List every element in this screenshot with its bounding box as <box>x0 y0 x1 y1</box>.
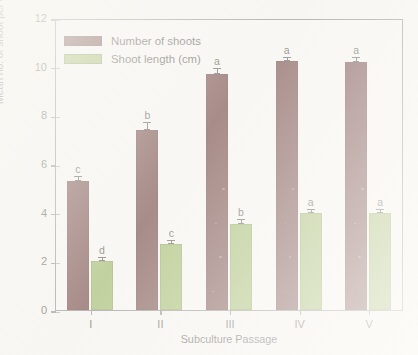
error-bar-cap <box>167 240 175 241</box>
y-tick-inner-stub <box>56 263 60 264</box>
significance-letter-V-length: a <box>368 196 392 208</box>
y-tick-label: 4 <box>17 207 47 219</box>
y-tick-label: 6 <box>17 158 47 170</box>
bar-V-shoots <box>345 62 367 310</box>
error-bar-lower-cap <box>99 260 105 261</box>
x-tick-label-IV: IV <box>280 318 320 330</box>
bar-I-shoots <box>67 181 89 310</box>
bar-II-length <box>160 244 182 310</box>
legend-label-number-of-shoots: Number of shoots <box>111 35 201 47</box>
y-tick-inner-stub <box>56 214 60 215</box>
x-tick-label-III: III <box>210 318 250 330</box>
error-bar-cap <box>376 209 384 210</box>
scan-speck <box>292 188 295 191</box>
scan-speck <box>354 223 356 225</box>
figure-canvas: Number of shoots Shoot length (cm) 02468… <box>0 0 418 355</box>
y-tick-inner-stub <box>56 68 60 69</box>
scan-speck <box>219 256 222 259</box>
y-tick-label: 0 <box>17 304 47 316</box>
error-bar-cap <box>74 176 82 177</box>
plot-area: Number of shoots Shoot length (cm) 02468… <box>55 19 403 311</box>
x-tick-label-V: V <box>349 318 389 330</box>
x-tick-mark-II <box>160 310 161 315</box>
error-bar-lower-cap <box>377 212 383 213</box>
error-bar-lower-cap <box>75 180 81 181</box>
error-bar-lower-cap <box>284 60 290 61</box>
scan-speck <box>358 256 361 259</box>
error-bar-lower-cap <box>168 243 174 244</box>
significance-letter-III-length: b <box>229 206 253 218</box>
chart-legend: Number of shoots Shoot length (cm) <box>64 33 201 69</box>
error-bar-lower-cap <box>238 223 244 224</box>
bar-III-length <box>230 224 252 310</box>
legend-item-number-of-shoots: Number of shoots <box>64 33 201 48</box>
error-bar-cap <box>143 122 151 123</box>
legend-label-shoot-length: Shoot length (cm) <box>111 53 201 65</box>
x-tick-mark-III <box>230 310 231 315</box>
error-bar-lower-cap <box>353 61 359 62</box>
legend-item-shoot-length: Shoot length (cm) <box>64 51 201 66</box>
y-tick-label: 12 <box>17 12 47 24</box>
error-bar-lower-cap <box>144 129 150 130</box>
significance-letter-IV-shoots: a <box>275 44 299 56</box>
scan-speck <box>222 188 225 191</box>
scan-speck <box>289 256 292 259</box>
y-axis-title: Mean no. of shoot per explant/Mean shoot… <box>0 0 5 104</box>
bar-IV-length <box>300 213 322 310</box>
error-bar-cap <box>237 219 245 220</box>
significance-letter-V-shoots: a <box>344 44 368 56</box>
x-tick-mark-I <box>91 310 92 315</box>
error-bar-cap <box>283 57 291 58</box>
bar-III-shoots <box>206 74 228 310</box>
bar-II-shoots <box>136 130 158 310</box>
error-bar-cap <box>213 68 221 69</box>
error-bar-cap <box>352 57 360 58</box>
significance-letter-I-length: d <box>90 244 114 256</box>
x-tick-label-I: I <box>71 318 111 330</box>
y-tick-inner-stub <box>56 117 60 118</box>
y-tick-label: 8 <box>17 109 47 121</box>
error-bar-cap <box>307 209 315 210</box>
scan-speck <box>215 223 217 225</box>
y-tick-label: 10 <box>17 61 47 73</box>
x-axis-title: Subculture Passage <box>55 333 403 345</box>
x-tick-label-II: II <box>140 318 180 330</box>
bar-IV-shoots <box>276 61 298 310</box>
significance-letter-III-shoots: a <box>205 55 229 67</box>
error-bar-lower-cap <box>308 212 314 213</box>
significance-letter-II-shoots: b <box>135 109 159 121</box>
y-tick-label: 2 <box>17 255 47 267</box>
scan-speck <box>285 223 287 225</box>
significance-letter-II-length: c <box>159 227 183 239</box>
scan-speck <box>361 188 364 191</box>
y-tick-inner-stub <box>56 20 60 21</box>
error-bar-cap <box>98 257 106 258</box>
y-tick-inner-stub <box>56 166 60 167</box>
x-tick-mark-IV <box>300 310 301 315</box>
scan-speck <box>212 291 214 293</box>
scan-speck <box>282 291 284 293</box>
legend-swatch-shoot-length <box>64 54 102 64</box>
legend-swatch-number-of-shoots <box>64 36 102 46</box>
bar-V-length <box>369 213 391 310</box>
error-bar-lower-cap <box>214 73 220 74</box>
bar-I-length <box>91 261 113 310</box>
x-tick-mark-V <box>369 310 370 315</box>
significance-letter-IV-length: a <box>299 196 323 208</box>
significance-letter-I-shoots: c <box>66 163 90 175</box>
scan-speck <box>351 291 353 293</box>
y-tick-inner-stub <box>56 312 60 313</box>
